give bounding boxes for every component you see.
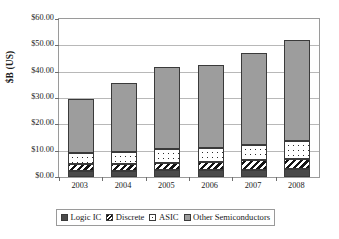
- gridline: [59, 124, 319, 125]
- legend-label: ASIC: [159, 213, 179, 222]
- bar-segment-asic: [111, 152, 137, 164]
- bar-segment-asic: [154, 149, 180, 162]
- bar-segment-asic: [198, 148, 224, 162]
- legend-swatch-icon: [106, 214, 113, 221]
- y-axis-tick-label: $0.00: [12, 172, 54, 180]
- y-axis-tick-label: $40.00: [12, 67, 54, 75]
- bar-segment-logic-ic: [198, 170, 224, 177]
- bar-segment-other-semiconductors: [198, 65, 224, 148]
- legend-entry: ASIC: [149, 213, 178, 222]
- legend-swatch-icon: [149, 214, 156, 221]
- gridline: [59, 98, 319, 99]
- bar-segment-discrete: [154, 163, 180, 171]
- bar-segment-logic-ic: [241, 170, 267, 177]
- legend-label: Other Semiconductors: [193, 213, 270, 222]
- bar-segment-asic: [241, 145, 267, 161]
- bar-segment-other-semiconductors: [111, 83, 137, 152]
- legend-swatch-icon: [184, 214, 191, 221]
- bar-segment-discrete: [111, 164, 137, 171]
- y-axis-tick-label: $50.00: [12, 40, 54, 48]
- stacked-bar-chart: $B (US) $0.00$10.00$20.00$30.00$40.00$50…: [0, 0, 339, 239]
- legend-label: Logic IC: [71, 213, 102, 222]
- y-axis-tick-labels: $0.00$10.00$20.00$30.00$40.00$50.00$60.0…: [12, 16, 54, 180]
- plot-area: [58, 18, 320, 178]
- gridline: [59, 45, 319, 46]
- bar-segment-other-semiconductors: [284, 40, 310, 142]
- gridline: [59, 151, 319, 152]
- y-axis-tick-mark: [55, 98, 59, 99]
- x-axis-tick-label: 2004: [100, 181, 146, 191]
- bar-segment-other-semiconductors: [241, 53, 267, 145]
- y-axis-tick-label: $30.00: [12, 93, 54, 101]
- bar-segment-logic-ic: [284, 169, 310, 177]
- gridline: [59, 72, 319, 73]
- bar-segment-logic-ic: [68, 171, 94, 177]
- bar-segment-logic-ic: [111, 171, 137, 177]
- legend-entry: Other Semiconductors: [184, 213, 271, 222]
- x-axis-tick-label: 2003: [57, 181, 103, 191]
- chart-legend: Logic ICDiscreteASICOther Semiconductors: [56, 209, 275, 226]
- legend-entry: Logic IC: [61, 213, 101, 222]
- bar-segment-asic: [68, 153, 94, 164]
- legend-label: Discrete: [116, 213, 145, 222]
- x-axis-tick-label: 2007: [230, 181, 276, 191]
- y-axis-tick-label: $10.00: [12, 146, 54, 154]
- bar-segment-other-semiconductors: [154, 67, 180, 149]
- y-axis-tick-mark: [55, 19, 59, 20]
- x-axis-tick-labels: 200320042005200620072008: [58, 181, 320, 195]
- bar-segment-discrete: [68, 164, 94, 171]
- y-axis-tick-mark: [55, 151, 59, 152]
- x-axis-tick-label: 2008: [273, 181, 319, 191]
- y-axis-tick-label: $60.00: [12, 14, 54, 22]
- legend-entry: Discrete: [106, 213, 144, 222]
- y-axis-tick-label: $20.00: [12, 119, 54, 127]
- y-axis-tick-mark: [55, 72, 59, 73]
- x-axis-tick-label: 2005: [143, 181, 189, 191]
- bar-segment-discrete: [241, 160, 267, 169]
- bar-segment-discrete: [284, 159, 310, 169]
- bar-segment-logic-ic: [154, 170, 180, 177]
- x-axis-tick-label: 2006: [187, 181, 233, 191]
- legend-swatch-icon: [61, 214, 68, 221]
- y-axis-tick-mark: [55, 124, 59, 125]
- bar-segment-other-semiconductors: [68, 99, 94, 154]
- y-axis-tick-mark: [55, 45, 59, 46]
- bar-segment-asic: [284, 141, 310, 159]
- bar-segment-discrete: [198, 162, 224, 170]
